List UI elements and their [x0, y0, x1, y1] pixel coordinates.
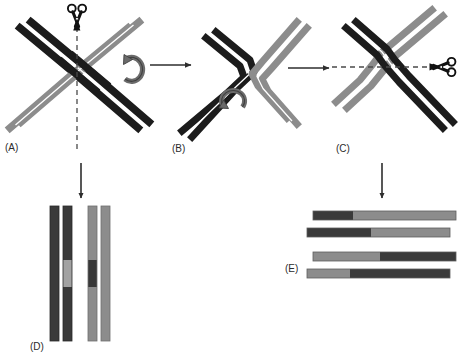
panel-b-dark-duplex [182, 32, 254, 137]
scissors-icon [430, 58, 456, 76]
panel-e [307, 211, 456, 278]
panel-c [332, 10, 455, 128]
panel-a: (A) [0, 0, 149, 150]
panel-d-strand-4 [101, 206, 110, 341]
panel-label-b: (B) [172, 143, 185, 154]
panel-e-duplex-1-bottom [307, 228, 450, 237]
panel-label-c: (C) [336, 143, 350, 154]
figure-canvas: (A) [0, 0, 468, 360]
panel-label-d: (D) [30, 341, 44, 352]
panel-e-duplex-2-bottom [307, 269, 450, 278]
panel-b [182, 22, 307, 137]
panel-d [50, 206, 110, 341]
panel-label-e: (E) [285, 263, 298, 274]
panel-label-a: (A) [5, 142, 18, 153]
panel-b-light-duplex [252, 22, 307, 124]
rotate-arrow-icon [124, 55, 143, 82]
scissors-icon [68, 5, 86, 31]
panel-a-dark-duplex [20, 22, 149, 128]
panel-d-strand-1 [50, 206, 59, 341]
panel-e-duplex-2-top [313, 252, 456, 261]
panel-d-strand-2 [63, 206, 72, 341]
recombination-figure: (A) [0, 0, 468, 360]
panel-d-strand-3 [88, 206, 97, 341]
panel-e-duplex-1-top [313, 211, 456, 220]
